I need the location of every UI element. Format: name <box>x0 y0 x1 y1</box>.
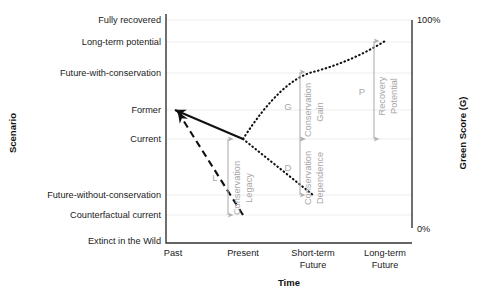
annotation-conservation-gain: G Conservation Gain <box>284 72 325 139</box>
right-tick-label-top: 100% <box>417 15 441 25</box>
right-axis-title: Green Score (G) <box>457 97 468 170</box>
chart-svg: Fully recovered Long-term potential Futu… <box>0 0 478 297</box>
annotation-label-p-line2: Potential <box>389 78 399 114</box>
y-tick-label: Future-with-conservation <box>60 68 161 78</box>
y-tick-label: Current <box>130 134 161 144</box>
annotation-label-g-line2: Gain <box>315 102 325 121</box>
annotation-label-d-line1: Conservation <box>303 151 313 205</box>
annotation-label-g-line1: Conservation <box>303 83 313 137</box>
y-tick-label: Future-without-conservation <box>47 190 161 200</box>
y-tick-label: Fully recovered <box>98 15 161 25</box>
green-score-scenario-chart: Fully recovered Long-term potential Futu… <box>0 0 478 297</box>
axes <box>166 14 412 243</box>
annotation-conservation-legacy: L Conservation Legacy <box>212 139 254 215</box>
annotation-label-d-line2: Dependence <box>315 152 325 204</box>
x-tick-label-past: Past <box>164 248 183 258</box>
x-tick-label-present: Present <box>227 248 259 258</box>
y-tick-label: Extinct in the Wild <box>88 236 161 246</box>
annotation-letter-g: G <box>284 101 291 112</box>
x-axis-tick-labels: Past Present Short-term Future Long-term… <box>164 248 406 270</box>
annotation-letter-l: L <box>212 172 217 183</box>
x-axis-title: Time <box>278 277 300 288</box>
right-tick-label-bottom: 0% <box>417 224 430 234</box>
x-tick-label-long-term-1: Long-term <box>364 248 406 258</box>
annotation-label-p-line1: Recovery <box>377 76 387 115</box>
x-tick-label-short-term-2: Future <box>300 260 327 270</box>
annotation-label-l-line2: Legacy <box>244 173 254 203</box>
annotation-letter-p: P <box>359 86 365 97</box>
right-axis-tick-labels: 100% 0% <box>417 15 441 234</box>
x-tick-label-short-term-1: Short-term <box>291 248 335 258</box>
annotation-recovery-potential: P Recovery Potential <box>359 41 399 139</box>
y-tick-label: Counterfactual current <box>70 210 161 220</box>
y-axis-tick-labels: Fully recovered Long-term potential Futu… <box>47 15 161 246</box>
annotation-label-l-line1: Conservation <box>232 161 242 215</box>
annotation-letter-d: D <box>285 162 292 173</box>
gridlines <box>166 20 412 215</box>
y-axis-title: Scenario <box>7 113 18 153</box>
y-tick-label: Long-term potential <box>82 37 161 47</box>
y-tick-label: Former <box>131 105 161 115</box>
x-tick-label-long-term-2: Future <box>372 260 399 270</box>
